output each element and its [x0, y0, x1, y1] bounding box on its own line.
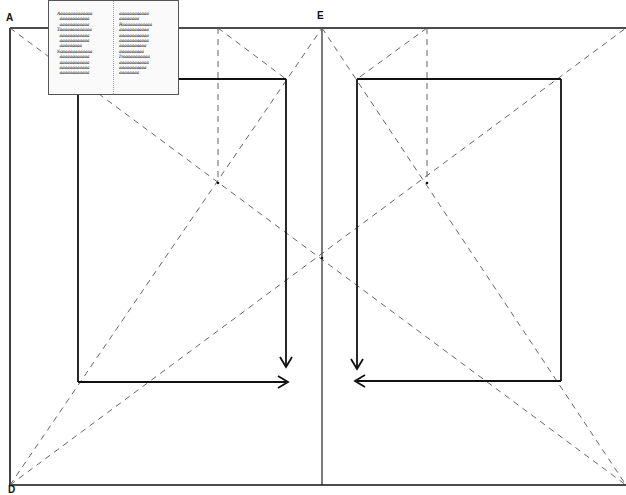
diagonal-left-page-D-to-E [10, 28, 322, 485]
left-page-intersection [217, 182, 220, 185]
diagonal-right-page-E-to-bottom-right [322, 28, 626, 485]
label-A: A [6, 12, 13, 23]
label-E: E [317, 10, 324, 21]
inset-left-column-text: Aaaaaaaaaaaaaa aaaaaaaaaaaa aaaaaaaaaaaa… [57, 11, 107, 76]
inset-spine [113, 1, 114, 94]
inset-right-column-text: aaaaaaaaaaaa aaaaaaaa Raaaaaaaaaaaa aaaa… [119, 11, 169, 76]
center-intersection [321, 257, 324, 260]
left-text-block [78, 79, 292, 388]
manuscript-inset-thumbnail: Aaaaaaaaaaaaaa aaaaaaaaaaaa aaaaaaaaaaaa… [48, 0, 179, 95]
label-D: D [8, 484, 15, 495]
right-divider-to-block-corner [357, 28, 427, 79]
left-divider-to-block-corner [218, 28, 286, 79]
right-page-intersection [426, 182, 429, 185]
construction-lines [10, 28, 626, 485]
right-text-block [351, 79, 561, 387]
